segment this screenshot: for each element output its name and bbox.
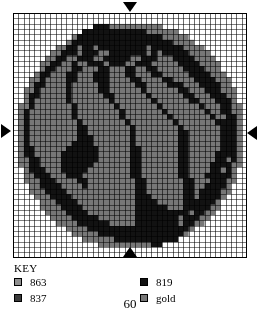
stitch-grid-canvas bbox=[13, 13, 247, 258]
legend-item: 863 bbox=[14, 276, 134, 288]
legend-label: 863 bbox=[30, 277, 47, 288]
legend-title: KEY bbox=[14, 262, 250, 274]
stitch-chart bbox=[0, 0, 260, 260]
page-number: 60 bbox=[0, 297, 260, 311]
center-marker-top-icon bbox=[123, 2, 137, 12]
legend-label: 819 bbox=[156, 277, 173, 288]
center-marker-left-icon bbox=[1, 124, 11, 138]
legend-swatch-863 bbox=[14, 278, 22, 286]
center-marker-bottom-icon bbox=[123, 247, 137, 257]
legend-swatch-819 bbox=[140, 278, 148, 286]
legend-item: 819 bbox=[140, 276, 250, 288]
center-marker-right-icon bbox=[247, 126, 257, 140]
